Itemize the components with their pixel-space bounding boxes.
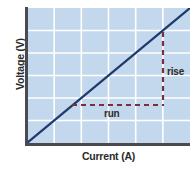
x-axis-title: Current (A) (27, 150, 190, 162)
x-axis-line (25, 143, 190, 146)
run-label: run (104, 108, 120, 119)
y-axis-line (25, 7, 28, 145)
data-layer (27, 8, 190, 143)
chart-figure: Voltage (V) rise run (0, 0, 196, 172)
rise-label: rise (167, 66, 184, 77)
plot-area (27, 8, 190, 143)
data-line-voltage-vs-current (27, 8, 190, 143)
